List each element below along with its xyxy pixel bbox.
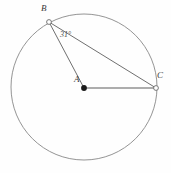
angle-measure-label-abc: 31°: [60, 31, 71, 39]
point-label-b: B: [41, 4, 47, 13]
point-b-marker: [47, 20, 52, 25]
point-label-c: C: [157, 71, 163, 80]
point-a-center-dot: [81, 85, 87, 91]
geometry-canvas: [0, 0, 171, 173]
point-label-a: A: [74, 75, 80, 84]
geometry-figure: B A C 31°: [0, 0, 171, 173]
point-c-marker: [154, 86, 159, 91]
